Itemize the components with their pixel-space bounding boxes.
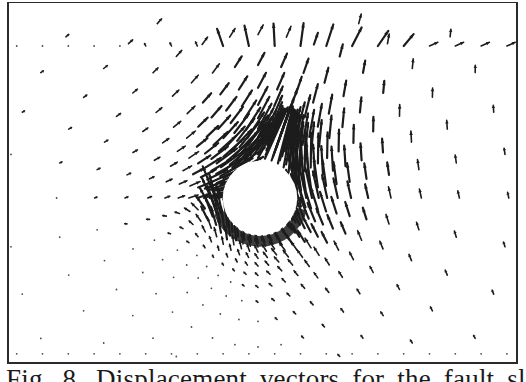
mesh-node-dot — [351, 353, 353, 355]
mesh-node-dot — [186, 264, 188, 266]
mesh-node-dot — [280, 344, 282, 346]
mesh-node-dot — [67, 353, 69, 355]
mesh-node-dot — [93, 45, 95, 47]
mesh-node-dot — [162, 259, 164, 261]
mesh-node-dot — [225, 295, 227, 297]
mesh-node-dot — [186, 292, 188, 294]
vector-arrowhead — [445, 120, 449, 123]
mesh-node-dot — [40, 338, 42, 340]
mesh-node-dot — [59, 236, 61, 238]
mesh-node-dot — [377, 353, 379, 355]
vector-arrowhead — [207, 217, 210, 222]
mesh-node-dot — [93, 353, 95, 355]
vector-arrowhead — [330, 25, 333, 30]
displacement-vector — [318, 133, 319, 163]
mesh-node-dot — [196, 353, 198, 355]
mesh-node-dot — [300, 353, 302, 355]
mesh-node-dot — [222, 353, 224, 355]
vector-arrowhead — [409, 131, 413, 135]
mesh-node-dot — [506, 353, 508, 355]
vector-arrowhead — [352, 125, 356, 130]
mesh-node-dot — [197, 277, 199, 279]
mesh-node-dot — [480, 353, 482, 355]
vector-arrowhead — [398, 105, 402, 109]
mesh-node-dot — [119, 45, 121, 47]
mesh-node-dot — [191, 326, 193, 328]
mesh-node-dot — [145, 353, 147, 355]
mesh-node-dot — [212, 337, 214, 339]
mesh-node-dot — [16, 353, 18, 355]
vector-arrowhead — [337, 130, 341, 135]
mesh-node-dot — [116, 289, 118, 291]
mesh-node-dot — [21, 293, 23, 295]
vector-arrowhead — [449, 29, 453, 32]
mesh-node-dot — [234, 344, 236, 346]
mesh-node-dot — [155, 293, 157, 295]
mesh-node-dot — [171, 353, 173, 355]
mesh-node-dot — [217, 275, 219, 277]
mesh-node-dot — [154, 239, 156, 241]
mesh-node-dot — [241, 300, 243, 302]
mesh-node-dot — [454, 353, 456, 355]
vector-arrowhead — [474, 65, 478, 68]
mesh-node-dot — [103, 342, 105, 344]
mesh-node-dot — [230, 281, 232, 283]
mesh-node-dot — [325, 353, 327, 355]
vector-arrowhead — [305, 59, 308, 64]
mesh-node-dot — [403, 353, 405, 355]
figure-caption: Fig. 8. Displacement vectors for the fau… — [6, 366, 526, 382]
mesh-node-dot — [16, 45, 18, 47]
mesh-node-dot — [202, 304, 204, 306]
mesh-node-dot — [42, 353, 44, 355]
vector-arrowhead — [372, 117, 376, 122]
vector-arrowhead — [345, 202, 348, 207]
mesh-node-dot — [219, 313, 221, 315]
vector-arrowhead — [411, 59, 415, 63]
mesh-node-dot — [10, 154, 12, 156]
mesh-node-dot — [177, 249, 179, 251]
mesh-node-dot — [172, 311, 174, 313]
mesh-node-dot — [42, 45, 44, 47]
vector-arrowhead — [431, 88, 435, 91]
mesh-node-dot — [132, 248, 134, 250]
vector-arrowhead — [217, 29, 220, 34]
mesh-node-dot — [248, 353, 250, 355]
vector-arrowhead — [147, 218, 148, 222]
vector-arrowhead — [331, 197, 334, 202]
mesh-node-dot — [104, 260, 106, 262]
vector-marks — [10, 14, 515, 357]
mesh-node-dot — [142, 272, 144, 274]
mesh-node-dot — [257, 346, 259, 348]
mesh-node-dot — [119, 353, 121, 355]
mesh-node-dot — [132, 315, 134, 317]
mesh-node-dot — [68, 274, 70, 276]
mesh-node-dot — [175, 356, 177, 358]
vector-arrowhead — [503, 148, 507, 150]
vector-arrowhead — [492, 105, 496, 108]
mesh-node-dot — [10, 246, 12, 248]
mesh-node-dot — [274, 353, 276, 355]
mesh-node-dot — [211, 287, 213, 289]
mesh-node-dot — [83, 310, 85, 312]
caption-text: Fig. 8. Displacement vectors for the fau… — [6, 366, 526, 382]
mesh-node-dot — [67, 45, 69, 47]
vector-arrowhead — [341, 222, 344, 227]
cavity-circle — [223, 161, 297, 235]
mesh-node-dot — [173, 276, 175, 278]
mesh-node-dot — [152, 337, 154, 339]
mesh-node-dot — [206, 266, 208, 268]
vector-arrowhead — [125, 222, 126, 226]
mesh-node-dot — [196, 255, 198, 257]
mesh-node-dot — [238, 319, 240, 321]
mesh-node-dot — [429, 353, 431, 355]
mesh-node-dot — [96, 229, 98, 231]
mesh-node-dot — [257, 321, 259, 323]
mesh-node-dot — [56, 197, 58, 199]
